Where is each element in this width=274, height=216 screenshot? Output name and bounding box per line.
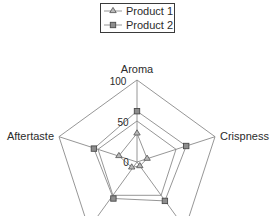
radar-grid	[59, 80, 215, 216]
data-point-product-2-aroma	[134, 109, 139, 114]
tick-label-100: 100	[110, 76, 127, 87]
legend-label-product-2: Product 2	[126, 19, 173, 31]
tick-label-0: 0	[123, 157, 129, 168]
series-product-1	[116, 130, 151, 169]
square-marker-icon	[110, 22, 115, 27]
radar-chart: Product 1 Product 2	[0, 0, 274, 216]
data-point-product-2-aftertaste	[91, 146, 96, 151]
axis-label-aroma: Aroma	[121, 63, 154, 75]
axis-label-crispness: Crispness	[220, 130, 269, 142]
data-point-product-2-sourness	[111, 196, 116, 201]
category-labels: Aroma Crispness Aftertaste	[7, 63, 269, 142]
data-point-product-1-aroma	[134, 130, 140, 135]
chart-legend: Product 1 Product 2	[101, 4, 175, 33]
legend-label-product-1: Product 1	[126, 5, 173, 17]
series-polygon-product-2	[94, 111, 186, 201]
tick-label-50: 50	[117, 117, 129, 128]
spoke-sweetness	[137, 162, 185, 216]
axis-label-aftertaste: Aftertaste	[7, 130, 54, 142]
data-point-product-2-crispness	[184, 143, 189, 148]
spoke-sourness	[89, 162, 137, 216]
data-point-product-2-sweetness	[162, 198, 167, 203]
